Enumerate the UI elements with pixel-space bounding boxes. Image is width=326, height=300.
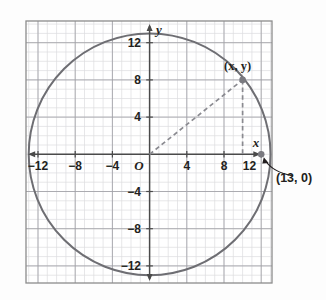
x-tick-label--8: −8 [68, 159, 82, 173]
y-tick-label-12: 12 [128, 36, 142, 50]
y-tick-label--4: −4 [127, 185, 141, 199]
point-xy-marker [239, 77, 246, 84]
y-tick-label--12: −12 [121, 259, 142, 273]
x-tick-label-8: 8 [221, 159, 228, 173]
y-axis-label: y [154, 22, 162, 37]
x-tick-label--12: −12 [28, 159, 49, 173]
x-tick-label-12: 12 [243, 159, 257, 173]
x-tick-label--4: −4 [106, 159, 120, 173]
point-xy-label: (x, y) [224, 59, 251, 73]
x-axis-label: x [252, 135, 260, 150]
origin-label: O [134, 158, 144, 173]
graph-svg: x y O −12 −8 −4 4 8 12 12 8 4 −4 −8 −12 … [0, 0, 326, 300]
y-tick-label-4: 4 [134, 110, 141, 124]
x-tick-label-4: 4 [183, 159, 190, 173]
y-tick-label--8: −8 [127, 222, 141, 236]
point-13-0-marker [258, 151, 265, 158]
coordinate-plane-figure: x y O −12 −8 −4 4 8 12 12 8 4 −4 −8 −12 … [0, 0, 326, 300]
y-tick-label-8: 8 [134, 73, 141, 87]
callout-13-0-label: (13, 0) [276, 171, 312, 185]
